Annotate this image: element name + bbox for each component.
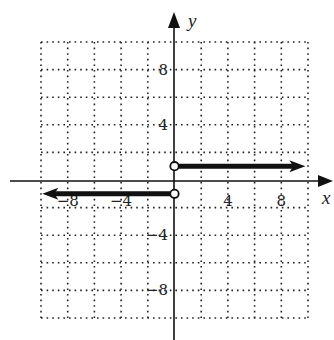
x-axis-arrow-icon	[318, 175, 333, 187]
step-function-graph: x y −8−44884−4−8	[0, 0, 334, 340]
y-tick-label: 8	[158, 61, 168, 79]
y-axis-arrow-icon	[168, 12, 180, 28]
y-tick-label: −8	[146, 281, 168, 299]
x-axis-label: x	[321, 187, 331, 208]
y-tick-label: 4	[158, 116, 168, 134]
x-tick-label: 8	[277, 192, 287, 210]
y-axis-label: y	[186, 10, 197, 31]
y-tick-label: −4	[146, 226, 168, 244]
x-tick-label: 4	[223, 192, 233, 210]
open-circle-marker	[170, 162, 178, 170]
open-circle-marker	[170, 190, 178, 198]
